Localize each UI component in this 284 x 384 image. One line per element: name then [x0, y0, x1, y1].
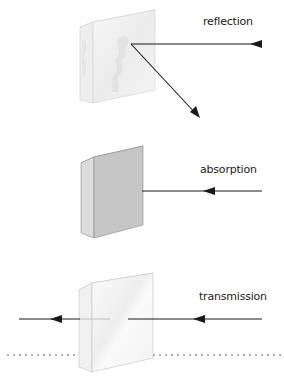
absorption-label: absorption: [200, 163, 257, 176]
reflection-label: reflection: [203, 15, 253, 28]
arrowhead-icon: [50, 315, 62, 323]
absorption-ray: [142, 187, 262, 195]
arrowhead-icon: [190, 106, 200, 118]
transmission-label: transmission: [199, 290, 267, 303]
absorption-block: [81, 146, 143, 238]
reflection-block: [80, 10, 155, 103]
transmission-block: [79, 273, 153, 372]
arrowhead-icon: [203, 187, 215, 195]
light-interaction-diagram: [0, 0, 284, 384]
arrowhead-icon: [193, 315, 205, 323]
arrowhead-icon: [250, 40, 262, 48]
